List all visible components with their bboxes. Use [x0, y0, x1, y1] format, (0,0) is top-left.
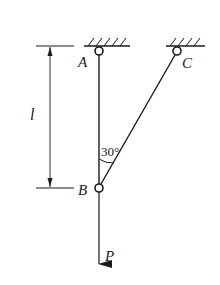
label-angle: 30° — [101, 144, 119, 159]
label-p: P — [104, 248, 114, 264]
pin-c — [173, 47, 181, 55]
label-a: A — [77, 54, 88, 70]
pin-a — [95, 47, 103, 55]
ceiling-support-a — [84, 38, 130, 46]
label-length-l: l — [30, 106, 35, 123]
pin-b — [95, 184, 103, 192]
bar-bc — [101, 55, 175, 184]
dimension-l — [36, 46, 74, 188]
label-b: B — [78, 182, 87, 198]
ceiling-support-c — [166, 38, 205, 46]
angle-arc — [99, 159, 114, 163]
label-c: C — [182, 55, 193, 71]
truss-diagram: A C B P l 30° — [0, 0, 220, 285]
